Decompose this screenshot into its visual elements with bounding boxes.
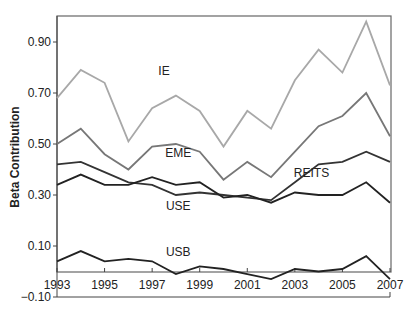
line-chart: 0.900.700.500.300.10−0.10 19931995199719… bbox=[0, 0, 415, 311]
plot-frame bbox=[57, 16, 391, 272]
chart-svg: 0.900.700.500.300.10−0.10 19931995199719… bbox=[0, 0, 415, 311]
y-axis-title: Beta Contribution bbox=[8, 106, 22, 207]
y-tick-label: 0.50 bbox=[28, 137, 52, 151]
series-label-eme: EME bbox=[165, 146, 191, 160]
x-tick-label: 2007 bbox=[377, 278, 404, 292]
x-tick-label: 1997 bbox=[139, 278, 166, 292]
series-line-usb bbox=[57, 251, 390, 279]
series-line-ie bbox=[57, 22, 390, 147]
y-tick-label: 0.70 bbox=[28, 86, 52, 100]
y-tick-label: 0.90 bbox=[28, 35, 52, 49]
y-axis-ticks: 0.900.700.500.300.10−0.10 bbox=[21, 35, 57, 304]
y-tick-label: 0.10 bbox=[28, 239, 52, 253]
series-label-ie: IE bbox=[158, 64, 169, 78]
series-label-usb: USB bbox=[166, 245, 191, 259]
y-tick-label: 0.30 bbox=[28, 188, 52, 202]
series-line-eme bbox=[57, 93, 390, 180]
x-tick-label: 2001 bbox=[234, 278, 261, 292]
series-lines bbox=[57, 22, 390, 280]
x-tick-label: 1993 bbox=[44, 278, 71, 292]
series-label-use: USE bbox=[166, 199, 191, 213]
y-tick-label: −0.10 bbox=[21, 290, 52, 304]
series-labels: IEEMEREITSUSEUSB bbox=[158, 64, 329, 259]
series-label-reits: REITS bbox=[294, 166, 329, 180]
x-tick-label: 1995 bbox=[91, 278, 118, 292]
series-line-reits bbox=[57, 152, 390, 200]
x-tick-label: 1999 bbox=[186, 278, 213, 292]
x-tick-label: 2003 bbox=[282, 278, 309, 292]
x-tick-label: 2005 bbox=[329, 278, 356, 292]
